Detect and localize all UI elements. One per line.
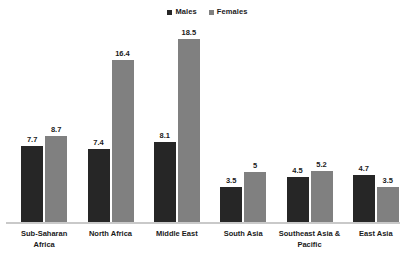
bar-group: 3.55 [220, 24, 266, 222]
category-label-line1: South Asia [207, 229, 279, 240]
bar-value-label: 3.5 [226, 177, 236, 185]
bar-column: 16.4 [112, 24, 134, 222]
bar-column: 5.2 [311, 24, 333, 222]
category-label: Middle East [141, 229, 213, 240]
bar-column: 8.7 [45, 24, 67, 222]
bar-chart: Males Females 7.78.77.416.48.118.53.554.… [0, 0, 415, 261]
bar-group: 4.73.5 [353, 24, 399, 222]
bar-males[interactable] [287, 177, 309, 222]
bar-females[interactable] [244, 172, 266, 222]
legend-item-females[interactable]: Females [209, 8, 248, 16]
bar-value-label: 18.5 [182, 29, 197, 37]
category-label-line2: Pacific [273, 240, 345, 251]
plot-area: 7.78.77.416.48.118.53.554.55.24.73.5 [8, 24, 406, 222]
chart-legend: Males Females [0, 5, 415, 19]
category-label-line1: Sub-Saharan [8, 229, 80, 240]
category-label-line1: North Africa [74, 229, 146, 240]
bar-value-label: 8.7 [51, 126, 61, 134]
bar-females[interactable] [45, 136, 67, 222]
bar-value-label: 5 [253, 162, 257, 170]
bar-group: 4.55.2 [287, 24, 333, 222]
category-label-line1: Middle East [141, 229, 213, 240]
bar-females[interactable] [377, 187, 399, 222]
category-label-line1: Southeast Asia & [273, 229, 345, 240]
bar-females[interactable] [112, 60, 134, 222]
bar-value-label: 5.2 [316, 161, 326, 169]
legend-item-males[interactable]: Males [167, 8, 196, 16]
bar-value-label: 4.7 [359, 165, 369, 173]
bar-column: 3.5 [377, 24, 399, 222]
bar-column: 18.5 [178, 24, 200, 222]
legend-swatch-males-icon [167, 10, 172, 15]
bar-females[interactable] [178, 39, 200, 222]
bar-value-label: 7.4 [93, 139, 103, 147]
bar-males[interactable] [21, 146, 43, 222]
category-label: South Asia [207, 229, 279, 240]
bar-column: 4.5 [287, 24, 309, 222]
x-axis-category-labels: Sub-SaharanAfricaNorth AfricaMiddle East… [8, 229, 406, 261]
bar-males[interactable] [220, 187, 242, 222]
bar-females[interactable] [311, 171, 333, 222]
bar-column: 5 [244, 24, 266, 222]
legend-label-males: Males [175, 8, 196, 16]
bar-value-label: 4.5 [292, 167, 302, 175]
bar-value-label: 8.1 [160, 132, 170, 140]
bar-column: 8.1 [154, 24, 176, 222]
bar-males[interactable] [154, 142, 176, 222]
legend-label-females: Females [217, 8, 248, 16]
bar-value-label: 7.7 [27, 136, 37, 144]
bar-males[interactable] [353, 175, 375, 222]
category-label: Sub-SaharanAfrica [8, 229, 80, 250]
bar-males[interactable] [88, 149, 110, 222]
bar-group: 7.416.4 [88, 24, 134, 222]
bar-column: 7.7 [21, 24, 43, 222]
category-label: East Asia [340, 229, 412, 240]
bar-column: 7.4 [88, 24, 110, 222]
bar-group: 8.118.5 [154, 24, 200, 222]
category-label-line2: Africa [8, 240, 80, 251]
legend-swatch-females-icon [209, 10, 214, 15]
category-label-line1: East Asia [340, 229, 412, 240]
bar-value-label: 3.5 [383, 177, 393, 185]
bar-value-label: 16.4 [115, 50, 130, 58]
x-axis-line [6, 222, 400, 224]
bar-group: 7.78.7 [21, 24, 67, 222]
category-label: North Africa [74, 229, 146, 240]
category-label: Southeast Asia &Pacific [273, 229, 345, 250]
bar-column: 3.5 [220, 24, 242, 222]
bar-column: 4.7 [353, 24, 375, 222]
